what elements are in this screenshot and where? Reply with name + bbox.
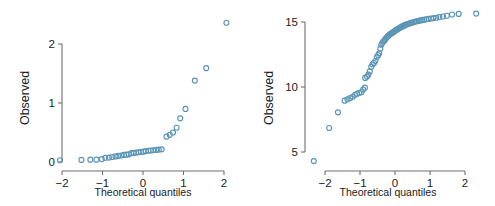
data-point-marker	[311, 159, 316, 164]
right-x-tick-label: 2	[462, 177, 468, 189]
data-point-marker	[474, 11, 479, 16]
left-axes-group: 012−2−1012	[49, 38, 228, 189]
right-y-tick-label: 5	[292, 146, 298, 158]
left-data-points	[57, 20, 228, 162]
data-point-marker	[94, 157, 99, 162]
data-point-marker	[79, 157, 84, 162]
qq-plot-left-svg: 012−2−1012 Observed Theoretical quantile…	[0, 0, 248, 206]
qq-plot-left-panel: 012−2−1012 Observed Theoretical quantile…	[0, 0, 248, 206]
data-point-marker	[183, 106, 188, 111]
left-x-tick-label: −2	[55, 177, 68, 189]
data-point-marker	[192, 78, 197, 83]
data-point-marker	[174, 125, 179, 130]
left-y-tick-label: 1	[49, 97, 55, 109]
right-y-tick-label: 10	[285, 81, 298, 93]
data-point-marker	[450, 12, 455, 17]
data-point-marker	[224, 20, 229, 25]
right-y-tick-label: 15	[285, 16, 298, 28]
right-x-axis-title: Theoretical quantiles	[340, 186, 437, 198]
data-point-marker	[88, 157, 93, 162]
left-y-tick-label: 2	[49, 38, 55, 50]
data-point-marker	[178, 116, 183, 121]
data-point-marker	[327, 125, 332, 130]
figure-container: 012−2−1012 Observed Theoretical quantile…	[0, 0, 495, 206]
data-point-marker	[204, 66, 209, 71]
data-point-marker	[335, 110, 340, 115]
right-y-axis-title: Observed	[262, 71, 276, 125]
left-y-tick-label: 0	[49, 156, 55, 168]
left-x-tick-label: 2	[221, 177, 227, 189]
left-y-axis-title: Observed	[18, 71, 32, 125]
right-data-points	[311, 11, 478, 164]
qq-plot-right-svg: 51015−2−1012 Observed Theoretical quanti…	[248, 0, 495, 206]
data-point-marker	[456, 11, 461, 16]
qq-plot-right-panel: 51015−2−1012 Observed Theoretical quanti…	[248, 0, 495, 206]
left-x-axis-title: Theoretical quantiles	[95, 186, 192, 198]
right-x-tick-label: −2	[318, 177, 331, 189]
